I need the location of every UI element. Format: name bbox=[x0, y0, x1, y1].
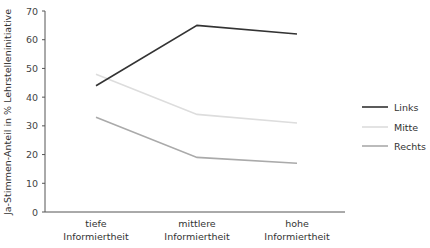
x-category-label: hohe bbox=[285, 218, 309, 229]
y-tick-label: 40 bbox=[26, 92, 38, 103]
series-line-rechts bbox=[96, 117, 297, 163]
y-tick-label: 0 bbox=[32, 207, 38, 218]
y-tick-label: 30 bbox=[26, 120, 38, 131]
legend: LinksMitteRechts bbox=[362, 102, 426, 152]
series-lines bbox=[96, 25, 297, 163]
line-chart: Ja-Stimmen-Anteil in % Lehrstelleninitia… bbox=[0, 0, 430, 248]
series-line-links bbox=[96, 25, 297, 85]
legend-label-mitte: Mitte bbox=[394, 122, 418, 133]
x-category-label: Informiertheit bbox=[164, 231, 230, 242]
series-line-mitte bbox=[96, 74, 297, 123]
x-category-label: mittlere bbox=[178, 218, 216, 229]
y-tick-label: 20 bbox=[26, 149, 38, 160]
y-tick-label: 50 bbox=[26, 63, 38, 74]
legend-label-links: Links bbox=[394, 102, 418, 113]
x-category-label: tiefe bbox=[85, 218, 107, 229]
x-category-label: Informiertheit bbox=[264, 231, 330, 242]
x-axis: tiefeInformiertheitmittlereInformierthei… bbox=[45, 212, 345, 242]
legend-label-rechts: Rechts bbox=[394, 141, 426, 152]
y-tick-label: 70 bbox=[26, 6, 38, 17]
x-category-label: Informiertheit bbox=[63, 231, 129, 242]
y-axis-label: Ja-Stimmen-Anteil in % Lehrstelleninitia… bbox=[2, 9, 13, 216]
y-tick-label: 60 bbox=[26, 34, 38, 45]
y-axis: 010203040506070 bbox=[26, 6, 45, 218]
y-tick-label: 10 bbox=[26, 178, 38, 189]
